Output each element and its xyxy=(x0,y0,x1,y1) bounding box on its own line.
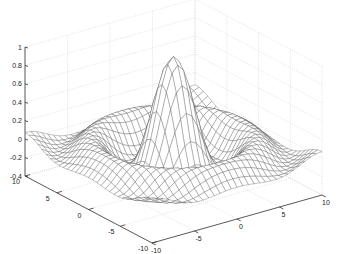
z-tick-label: 0.8 xyxy=(12,62,22,69)
y-tick-label: 5 xyxy=(46,195,50,202)
grid-line xyxy=(25,17,195,65)
y-tick-label: 0 xyxy=(78,212,82,219)
z-tick-label: 0 xyxy=(18,136,22,143)
surface-plot: -10-50510-10-50510-0.4-0.200.20.40.60.81 xyxy=(0,0,338,254)
x-tick xyxy=(195,231,199,233)
z-tick xyxy=(25,176,28,177)
z-tick xyxy=(25,102,28,103)
x-tick xyxy=(280,207,284,209)
z-tick-label: 0.6 xyxy=(12,80,22,87)
x-tick-label: 0 xyxy=(239,223,243,230)
z-tick-label: 0.4 xyxy=(12,99,22,106)
y-tick xyxy=(89,208,94,209)
x-tick-label: 5 xyxy=(282,211,286,218)
x-tick xyxy=(237,219,241,221)
z-tick-label: 0.2 xyxy=(12,117,22,124)
sinc-mesh xyxy=(25,57,322,204)
z-tick-label: 1 xyxy=(18,44,22,51)
z-tick xyxy=(25,47,28,48)
y-tick-label: -10 xyxy=(138,245,148,252)
z-tick xyxy=(25,121,28,122)
z-tick xyxy=(25,158,28,159)
y-tick xyxy=(57,191,62,193)
y-tick-label: -5 xyxy=(108,228,114,235)
z-tick xyxy=(25,84,28,85)
mesh-surface-figure: -10-50510-10-50510-0.4-0.200.20.40.60.81 xyxy=(0,0,338,254)
z-tick xyxy=(25,65,28,66)
y-tick xyxy=(152,242,157,243)
x-tick-label: -5 xyxy=(195,235,201,242)
y-tick xyxy=(25,175,30,176)
x-tick-label: 10 xyxy=(322,199,330,206)
x-tick xyxy=(322,195,326,197)
z-tick-label: -0.2 xyxy=(10,154,22,161)
x-tick-label: -10 xyxy=(151,247,161,254)
x-tick xyxy=(152,243,156,245)
y-tick xyxy=(120,225,125,227)
z-tick-label: -0.4 xyxy=(10,173,22,180)
z-tick xyxy=(25,139,28,140)
